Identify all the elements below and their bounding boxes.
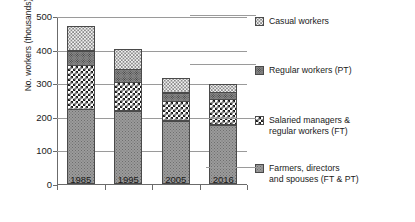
legend-item[interactable]: Casual workers (255, 16, 329, 27)
legend-label: Regular workers (PT) (269, 65, 352, 76)
bar-segment[interactable] (67, 109, 95, 184)
y-axis-line (57, 17, 58, 185)
legend-label: Salaried managers & regular workers (FT) (269, 115, 350, 137)
x-tick-mark (200, 185, 201, 190)
plot-area: 0100200300400500 (57, 17, 247, 185)
x-tick-mark (247, 185, 248, 190)
y-axis-title: No. workers (thousands) (23, 0, 33, 125)
y-tick-mark (53, 84, 57, 85)
y-tick-mark (53, 51, 57, 52)
x-tick-mark (105, 185, 106, 190)
y-tick-mark (53, 151, 57, 152)
y-tick-label: 100 (36, 147, 52, 157)
legend-swatch (255, 66, 264, 75)
legend-leader-line (206, 167, 256, 168)
bar-segment[interactable] (162, 101, 190, 121)
x-tick-mark (57, 185, 58, 190)
legend-swatch (255, 116, 264, 125)
legend-label: Farmers, directors and spouses (FT & PT) (269, 163, 359, 185)
legend-leader-line (206, 118, 256, 119)
bar-segment[interactable] (209, 99, 237, 125)
y-tick-mark (53, 118, 57, 119)
bar-segment[interactable] (114, 111, 142, 184)
y-tick-label: 0 (47, 180, 52, 190)
bar-segment[interactable] (114, 82, 142, 111)
bar-segment[interactable] (67, 26, 95, 52)
legend-leader-line (190, 15, 256, 16)
y-tick-label: 300 (36, 79, 52, 89)
y-tick-label: 400 (36, 46, 52, 56)
x-tick-label: 2016 (195, 174, 251, 185)
legend-leader-line (190, 64, 256, 65)
bar-segment[interactable] (114, 69, 142, 82)
bar-segment[interactable] (162, 78, 190, 93)
bar-stack[interactable] (67, 26, 95, 184)
bar-segment[interactable] (114, 49, 142, 70)
gridline (57, 17, 247, 18)
legend-swatch (255, 164, 264, 173)
y-tick-mark (53, 17, 57, 18)
legend-label: Casual workers (269, 16, 329, 27)
y-tick-label: 500 (36, 12, 52, 22)
bar-stack[interactable] (162, 79, 190, 184)
bar-stack[interactable] (114, 50, 142, 184)
legend-item[interactable]: Regular workers (PT) (255, 65, 352, 76)
stacked-bar-chart: No. workers (thousands) 0100200300400500… (0, 0, 415, 222)
legend-item[interactable]: Salaried managers & regular workers (FT) (255, 115, 350, 137)
x-tick-mark (152, 185, 153, 190)
bar-stack[interactable] (209, 85, 237, 184)
legend-item[interactable]: Farmers, directors and spouses (FT & PT) (255, 163, 359, 185)
y-tick-label: 200 (36, 113, 52, 123)
bar-segment[interactable] (67, 65, 95, 110)
bar-segment[interactable] (67, 51, 95, 66)
legend-swatch (255, 17, 264, 26)
